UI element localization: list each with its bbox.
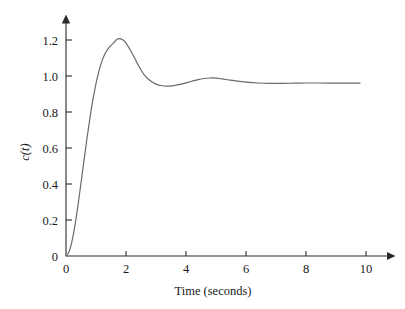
x-tick-label: 10 bbox=[360, 262, 373, 276]
step-response-chart: 0246810 00.20.40.60.81.01.2 Time (second… bbox=[0, 0, 405, 309]
y-tick-label: 1.2 bbox=[42, 34, 58, 48]
curve-group bbox=[66, 39, 360, 256]
y-tick-label: 0.6 bbox=[42, 142, 58, 156]
y-tick-group: 00.20.40.60.81.01.2 bbox=[42, 34, 72, 264]
y-tick-label: 0.4 bbox=[42, 178, 58, 192]
y-tick-label: 0.8 bbox=[42, 106, 58, 120]
x-tick-label: 0 bbox=[63, 262, 69, 276]
x-tick-label: 4 bbox=[183, 262, 190, 276]
y-axis-label: c(t) bbox=[18, 143, 32, 160]
y-tick-label: 1.0 bbox=[42, 70, 58, 84]
x-tick-label: 2 bbox=[123, 262, 129, 276]
figure-container: 0246810 00.20.40.60.81.01.2 Time (second… bbox=[0, 0, 405, 309]
axes-group bbox=[66, 22, 388, 256]
y-tick-label: 0 bbox=[52, 250, 58, 264]
x-axis-label: Time (seconds) bbox=[175, 284, 252, 298]
x-tick-label: 6 bbox=[243, 262, 249, 276]
x-tick-group: 0246810 bbox=[63, 251, 372, 276]
y-tick-label: 0.2 bbox=[42, 214, 58, 228]
x-tick-label: 8 bbox=[303, 262, 309, 276]
response-curve bbox=[66, 39, 360, 256]
